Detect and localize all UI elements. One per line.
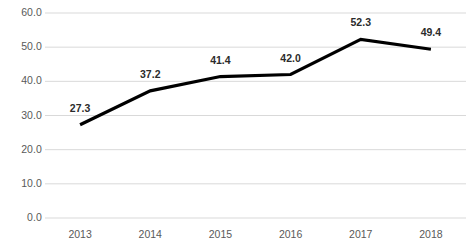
y-axis-tick-label: 10.0 [0,177,42,189]
x-axis-tick-label: 2018 [407,228,455,240]
y-axis-tick-label: 20.0 [0,143,42,155]
line-chart: 0.010.020.030.040.050.060.0 201320142015… [0,0,471,251]
data-point-label: 52.3 [340,16,382,28]
x-axis-tick-label: 2015 [196,228,244,240]
data-point-label: 37.2 [129,68,171,80]
y-axis-tick-label: 30.0 [0,109,42,121]
y-axis-tick-label: 0.0 [0,211,42,223]
data-point-label: 41.4 [199,54,241,66]
data-point-label: 27.3 [59,102,101,114]
chart-plot-area [0,0,471,251]
data-series-line [80,39,431,124]
data-point-label: 49.4 [410,26,452,38]
y-axis-tick-label: 40.0 [0,74,42,86]
x-axis-tick-label: 2016 [267,228,315,240]
x-axis-tick-label: 2014 [126,228,174,240]
y-axis-tick-label: 60.0 [0,6,42,18]
data-point-label: 42.0 [270,52,312,64]
x-axis-tick-label: 2013 [56,228,104,240]
y-axis-tick-label: 50.0 [0,40,42,52]
x-axis-tick-label: 2017 [337,228,385,240]
